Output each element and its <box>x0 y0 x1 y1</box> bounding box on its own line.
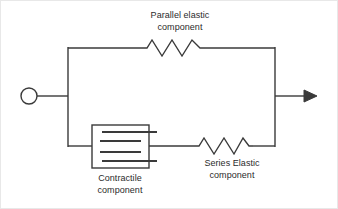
series-elastic-label-line2: component <box>186 170 278 182</box>
parallel-elastic-label-line2: component <box>130 22 230 34</box>
contractile-label-line1: Contractile <box>77 173 163 185</box>
output-arrow-icon <box>304 90 317 102</box>
series-elastic-component-label: Series Elastic component <box>186 158 278 181</box>
parallel-elastic-spring-icon <box>142 40 205 56</box>
diagram-canvas: Parallel elastic component Series Elasti… <box>0 0 338 209</box>
series-elastic-label-line1: Series Elastic <box>186 158 278 170</box>
parallel-elastic-component-label: Parallel elastic component <box>130 10 230 33</box>
input-terminal-circle-icon <box>21 88 37 104</box>
contractile-label-line2: component <box>77 185 163 197</box>
series-elastic-spring-icon <box>194 138 253 154</box>
contractile-component-label: Contractile component <box>77 173 163 196</box>
parallel-elastic-label-line1: Parallel elastic <box>130 10 230 22</box>
